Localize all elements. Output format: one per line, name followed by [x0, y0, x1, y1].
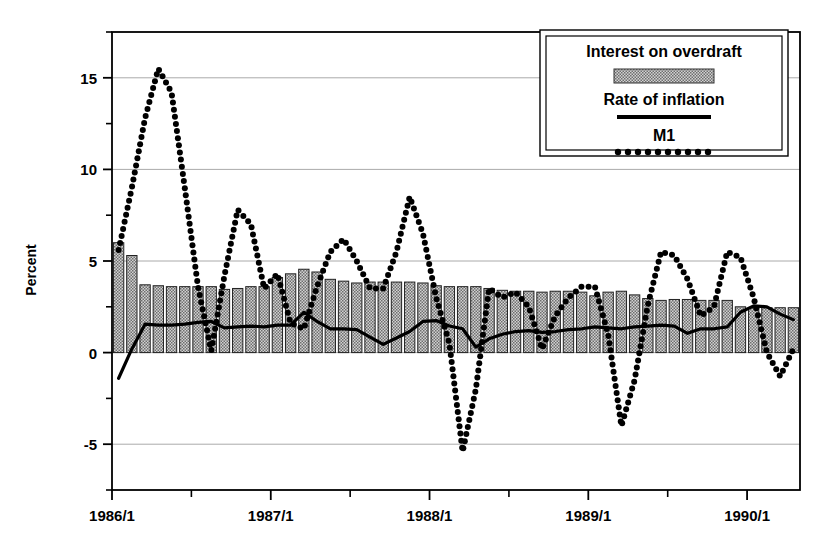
m1-dot [607, 347, 613, 353]
m1-dot [175, 135, 181, 141]
m1-dot [762, 340, 768, 346]
bar [246, 287, 256, 353]
m1-dot [468, 410, 474, 416]
m1-dot [145, 106, 151, 112]
m1-dot [631, 379, 637, 385]
m1-dot [249, 224, 255, 230]
legend-dot [615, 149, 621, 155]
m1-dot [738, 257, 744, 263]
bar [352, 283, 362, 353]
m1-dot [780, 368, 786, 374]
m1-dot [208, 347, 214, 353]
m1-dot [733, 253, 739, 259]
m1-dot [438, 310, 444, 316]
m1-dot [213, 319, 219, 325]
legend-swatch-bar [614, 69, 714, 83]
m1-dot [543, 336, 549, 342]
m1-dot [122, 219, 128, 225]
m1-dot [604, 326, 610, 332]
m1-dot [360, 271, 366, 277]
m1-dot [231, 227, 237, 233]
m1-dot [440, 317, 446, 323]
m1-dot [434, 296, 440, 302]
m1-dot [722, 260, 728, 266]
m1-dot [750, 291, 756, 297]
m1-dot [619, 420, 625, 426]
m1-dot [148, 92, 154, 98]
m1-dot [465, 424, 471, 430]
m1-dot [606, 340, 612, 346]
bar [259, 287, 269, 353]
m1-dot [152, 78, 158, 84]
percent-time-series-chart: 151050-5 1986/11987/11988/11989/11990/1 … [0, 0, 828, 546]
legend-label-rate-of-inflation: Rate of inflation [604, 91, 725, 108]
m1-dot [281, 296, 287, 302]
m1-dot [755, 312, 761, 318]
legend-dot [695, 149, 701, 155]
m1-dot [423, 247, 429, 253]
m1-dot [136, 148, 142, 154]
m1-dot [328, 248, 334, 254]
m1-dot [649, 287, 655, 293]
m1-dot [426, 261, 432, 267]
y-tick-label: 15 [80, 70, 97, 87]
m1-dot [245, 218, 251, 224]
m1-dot [167, 86, 173, 92]
m1-dot [283, 303, 289, 309]
m1-dot [257, 267, 263, 273]
m1-dot [302, 322, 308, 328]
m1-dot [586, 284, 592, 290]
m1-dot [689, 289, 695, 295]
m1-dot [174, 128, 180, 134]
m1-dot [469, 403, 475, 409]
m1-dot [463, 431, 469, 437]
m1-dot [117, 240, 123, 246]
m1-dot [394, 245, 400, 251]
m1-dot [475, 367, 481, 373]
m1-dot [323, 261, 329, 267]
m1-dot [545, 330, 551, 336]
m1-dot [279, 289, 285, 295]
m1-dot [366, 284, 372, 290]
m1-dot [416, 219, 422, 225]
m1-dot [193, 271, 199, 277]
m1-dot [548, 323, 554, 329]
m1-dot [126, 198, 132, 204]
m1-dot [766, 354, 772, 360]
m1-dot [181, 178, 187, 184]
m1-dot [347, 246, 353, 252]
m1-dot [180, 171, 186, 177]
m1-dot [187, 221, 193, 227]
m1-dot [460, 445, 466, 451]
m1-dot [318, 275, 324, 281]
m1-dot [639, 336, 645, 342]
m1-dot [677, 263, 683, 269]
m1-dot [616, 404, 622, 410]
m1-dot [621, 413, 627, 419]
m1-dot [457, 423, 463, 429]
m1-dot [401, 217, 407, 223]
bar [338, 281, 348, 352]
m1-dot [519, 296, 525, 302]
m1-dot [466, 417, 472, 423]
m1-dot [763, 347, 769, 353]
m1-dot [197, 292, 203, 298]
m1-dot [600, 312, 606, 318]
m1-dot [182, 185, 188, 191]
m1-dot [171, 107, 177, 113]
m1-dot [783, 361, 789, 367]
m1-dot [623, 406, 629, 412]
m1-dot [480, 332, 486, 338]
m1-dot [224, 262, 230, 268]
m1-dot [598, 305, 604, 311]
m1-dot [508, 291, 514, 297]
m1-dot [141, 120, 147, 126]
bar [127, 256, 137, 353]
m1-dot [578, 284, 584, 290]
bar [524, 291, 534, 352]
m1-dot [684, 276, 690, 282]
m1-dot [354, 258, 360, 264]
m1-dot [128, 191, 134, 197]
legend-dot [645, 149, 651, 155]
m1-dot [399, 224, 405, 230]
